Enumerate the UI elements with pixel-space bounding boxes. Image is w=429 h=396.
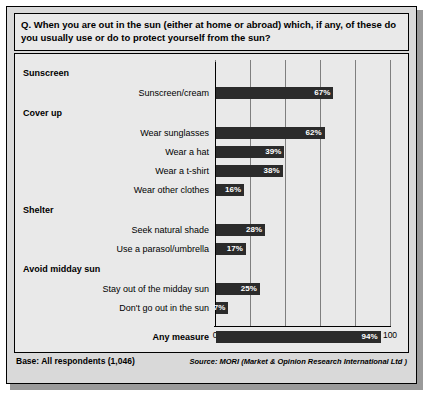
bar-value-label: 17% xyxy=(227,244,243,253)
bar-category-label: Stay out of the midday sun xyxy=(25,284,209,294)
gridline xyxy=(320,60,321,326)
bar-value-label: 7% xyxy=(214,303,226,312)
gridline xyxy=(390,60,391,326)
bar: 38% xyxy=(216,165,283,177)
bar: 17% xyxy=(216,243,246,255)
bar: 67% xyxy=(216,87,333,99)
bar: 62% xyxy=(216,127,325,139)
gridline xyxy=(355,60,356,326)
group-label: Cover up xyxy=(23,108,62,118)
chart-plot-area: 020406080100SunscreenSunscreen/cream67%C… xyxy=(14,53,409,353)
bar-category-label: Wear sunglasses xyxy=(25,128,209,138)
bar-value-label: 94% xyxy=(361,332,377,341)
group-label: Shelter xyxy=(23,205,54,215)
question-text: Q. When you are out in the sun (either a… xyxy=(14,13,409,51)
bar-value-label: 25% xyxy=(241,284,257,293)
bar: 16% xyxy=(216,184,244,196)
bar-value-label: 67% xyxy=(314,88,330,97)
bar-category-label: Wear other clothes xyxy=(25,185,209,195)
bar: 94% xyxy=(216,331,381,343)
gridline xyxy=(285,60,286,326)
bar: 28% xyxy=(216,224,265,236)
x-axis-tick-label: 100 xyxy=(378,330,402,340)
group-label: Avoid midday sun xyxy=(23,264,100,274)
bar-category-label: Wear a hat xyxy=(25,147,209,157)
bar-category-label: Don't go out in the sun xyxy=(25,303,209,313)
bar-value-label: 39% xyxy=(265,147,281,156)
bar-value-label: 16% xyxy=(225,185,241,194)
base-note: Base: All respondents (1,046) xyxy=(16,356,135,366)
bar-category-label: Use a parasol/umbrella xyxy=(25,244,209,254)
bar: 7% xyxy=(216,302,228,314)
group-label: Sunscreen xyxy=(23,68,69,78)
source-note: Source: MORI (Market & Opinion Research … xyxy=(189,357,407,366)
chart-frame: Q. When you are out in the sun (either a… xyxy=(6,6,417,384)
bar-category-label: Wear a t-shirt xyxy=(25,166,209,176)
bar-value-label: 28% xyxy=(246,225,262,234)
bar-value-label: 38% xyxy=(263,166,279,175)
bar: 25% xyxy=(216,283,260,295)
bar-value-label: 62% xyxy=(305,128,321,137)
chart-plot-inner: 020406080100SunscreenSunscreen/cream67%C… xyxy=(15,54,408,352)
x-axis-line xyxy=(214,326,391,327)
bar-category-label: Sunscreen/cream xyxy=(25,88,209,98)
bar-category-label: Any measure xyxy=(25,332,209,342)
bar: 39% xyxy=(216,146,284,158)
bar-category-label: Seek natural shade xyxy=(25,225,209,235)
